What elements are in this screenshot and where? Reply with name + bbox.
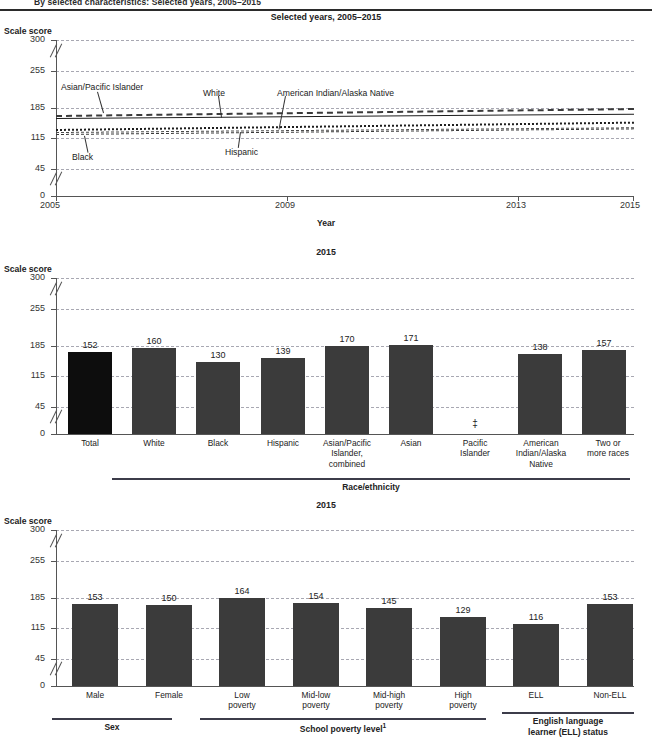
line-chart-x-axis-title: Year — [0, 218, 652, 228]
bar-value-total: 152 — [68, 340, 112, 350]
race-chart-x-axis — [56, 434, 634, 435]
race-ytick-label-0: 0 — [19, 428, 45, 438]
leader-hispanic — [238, 132, 241, 148]
bar-value-asian-pacific-islander-combined: 170 — [325, 334, 369, 344]
demo-ytick-185 — [51, 598, 56, 599]
bar-value-two-or-more-races: 157 — [582, 338, 626, 348]
series-label-american-indian: American Indian/Alaska Native — [277, 88, 394, 98]
ytick-label-300: 300 — [19, 34, 45, 44]
bar-value-mid-low-poverty: 154 — [293, 591, 339, 601]
group-label-race-ethnicity: Race/ethnicity — [112, 482, 630, 493]
cat-label-two-or-more-races: Two or more races — [574, 438, 642, 459]
group-label-sex: Sex — [52, 722, 172, 733]
ytick-45 — [51, 169, 56, 170]
ytick-255 — [51, 71, 56, 72]
ytick-300 — [51, 40, 56, 41]
cat-label-female: Female — [136, 690, 202, 700]
demo-y-axis-break-upper — [50, 534, 64, 548]
bar-asian — [389, 345, 433, 434]
cat-line: poverty — [356, 700, 422, 710]
cat-line: Low — [209, 690, 275, 700]
race-ytick-label-45: 45 — [19, 401, 45, 411]
demo-ytick-label-115: 115 — [19, 622, 45, 632]
race-ytick-label-115: 115 — [19, 370, 45, 380]
bar-value-american-indian-alaska-native: 138 — [518, 342, 562, 352]
demo-ytick-label-185: 185 — [19, 592, 45, 602]
race-ytick-45 — [51, 407, 56, 408]
cat-line: American — [505, 438, 577, 448]
bar-low-poverty — [219, 598, 265, 686]
race-chart-title: 2015 — [0, 247, 652, 257]
cat-label-american-indian-alaska-native: American Indian/Alaska Native — [505, 438, 577, 469]
group-rule-ell-status — [502, 712, 634, 714]
bar-female — [146, 605, 192, 686]
cat-label-white: White — [122, 438, 186, 448]
race-ytick-115 — [51, 376, 56, 377]
cat-label-hispanic: Hispanic — [251, 438, 315, 448]
race-ytick-185 — [51, 346, 56, 347]
cat-line: poverty — [430, 700, 496, 710]
demo-ytick-300 — [51, 530, 56, 531]
cat-line: Female — [136, 690, 202, 700]
footnote-marker: 1 — [383, 722, 387, 729]
demo-chart-x-axis — [56, 686, 634, 687]
cat-line: Native — [505, 459, 577, 469]
cat-line: Mid-high — [356, 690, 422, 700]
cat-line: poverty — [209, 700, 275, 710]
cat-label-total: Total — [58, 438, 122, 448]
ytick-label-0: 0 — [19, 190, 45, 200]
ytick-label-45: 45 — [19, 163, 45, 173]
cat-line: Total — [58, 438, 122, 448]
bar-american-indian-alaska-native — [518, 354, 562, 434]
cat-line: Islander — [443, 448, 507, 458]
figure-page: By selected characteristics: Selected ye… — [0, 0, 652, 743]
cat-line: White — [122, 438, 186, 448]
group-rule-race-ethnicity — [112, 478, 630, 480]
cat-label-high-poverty: High poverty — [430, 690, 496, 711]
bar-high-poverty — [440, 617, 486, 686]
demo-ytick-label-45: 45 — [19, 653, 45, 663]
leader-asian-pacific-islander — [97, 92, 104, 113]
cat-label-black: Black — [186, 438, 250, 448]
cat-line: Male — [62, 690, 128, 700]
bar-value-hispanic: 139 — [261, 346, 305, 356]
cat-label-pacific-islander: Pacific Islander — [443, 438, 507, 459]
cat-line: Hispanic — [251, 438, 315, 448]
header-rule — [0, 9, 652, 11]
race-gridline-300 — [56, 278, 634, 279]
demo-chart-title: 2015 — [0, 500, 652, 510]
series-label-black: Black — [72, 152, 93, 162]
bar-value-non-ell: 153 — [587, 592, 633, 602]
xtick-label-2009: 2009 — [275, 200, 295, 210]
bar-pacific-islander-suppressed: ‡ — [453, 418, 497, 429]
gridline-45 — [56, 169, 634, 170]
bar-value-low-poverty: 164 — [219, 586, 265, 596]
gridline-115 — [56, 138, 634, 139]
demo-y-axis-break-lower — [50, 662, 64, 676]
bar-value-black: 130 — [196, 350, 240, 360]
cat-label-mid-high-poverty: Mid-high poverty — [356, 690, 422, 711]
race-ytick-label-185: 185 — [19, 340, 45, 350]
y-axis-break-upper — [50, 44, 64, 58]
demo-ytick-label-300: 300 — [19, 524, 45, 534]
group-label-line: English language — [490, 716, 646, 727]
race-gridline-255 — [56, 309, 634, 310]
y-axis-break-lower — [50, 172, 64, 186]
cat-label-asian-pacific-islander-combined: Asian/Pacific Islander, combined — [313, 438, 381, 469]
bar-hispanic — [261, 358, 305, 434]
group-label-text: School poverty level — [300, 724, 383, 734]
bar-non-ell — [587, 604, 633, 686]
cat-line: poverty — [283, 700, 349, 710]
group-label-school-poverty-level: School poverty level1 — [200, 722, 486, 734]
bar-black — [196, 362, 240, 434]
ytick-185 — [51, 108, 56, 109]
bar-value-male: 153 — [72, 592, 118, 602]
demo-ytick-label-0: 0 — [19, 680, 45, 690]
cat-label-non-ell: Non-ELL — [577, 690, 643, 700]
demo-ytick-45 — [51, 659, 56, 660]
bar-value-female: 150 — [146, 593, 192, 603]
series-label-white: White — [203, 88, 225, 98]
cat-line: Two or — [574, 438, 642, 448]
bar-value-mid-high-poverty: 145 — [366, 596, 412, 606]
demo-ytick-255 — [51, 561, 56, 562]
